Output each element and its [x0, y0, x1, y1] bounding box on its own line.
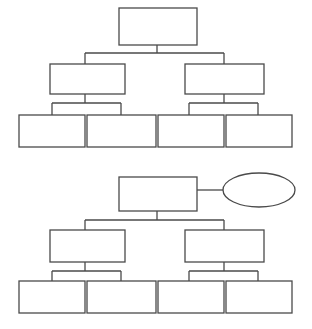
tree2-leaf-4-box [226, 281, 292, 313]
tree2-side-oval [223, 173, 295, 207]
tree2-root-box [119, 177, 197, 211]
tree-1 [19, 8, 292, 147]
tree1-root-box [119, 8, 197, 45]
tree1-leaf-1-box [19, 115, 85, 147]
tree2-leaf-3-box [158, 281, 224, 313]
tree1-mid-right-box [185, 64, 264, 94]
tree2-mid-right-box [185, 230, 264, 262]
tree1-leaf-4-box [226, 115, 292, 147]
tree1-mid-left-box [50, 64, 125, 94]
tree2-mid-left-box [50, 230, 125, 262]
tree1-leaf-3-box [158, 115, 224, 147]
diagram-canvas [0, 0, 312, 329]
tree-2 [19, 173, 295, 313]
tree2-leaf-1-box [19, 281, 85, 313]
tree2-leaf-2-box [87, 281, 156, 313]
tree1-leaf-2-box [87, 115, 156, 147]
